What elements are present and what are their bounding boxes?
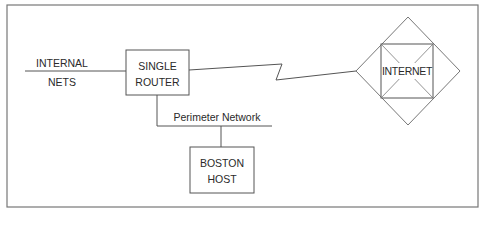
router-label: SINGLE ROUTER (126, 60, 189, 89)
wan-lightning-link (189, 64, 356, 80)
internet-label: INTERNET (381, 65, 433, 78)
internal-nets-label-2: NETS (40, 76, 84, 89)
boston-host-label: BOSTON HOST (190, 157, 254, 186)
boston-host-label-line1: BOSTON (190, 157, 254, 170)
router-label-line1: SINGLE (126, 60, 189, 73)
internal-nets-label: INTERNAL (30, 57, 94, 70)
router-label-line2: ROUTER (126, 76, 189, 89)
perimeter-network-label: Perimeter Network (162, 111, 272, 124)
internal-nets-label-line1: INTERNAL (30, 57, 94, 70)
boston-host-label-line2: HOST (190, 173, 254, 186)
internal-nets-label-line2: NETS (40, 76, 84, 89)
